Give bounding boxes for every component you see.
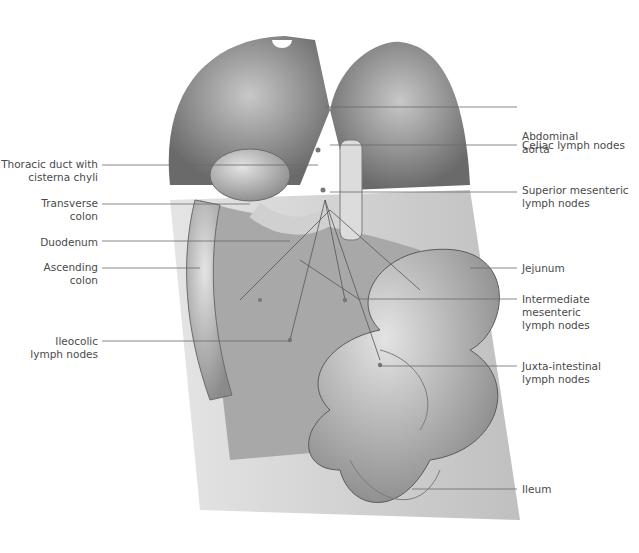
- label-transverse: Transverse colon: [41, 197, 98, 223]
- label-ileocolic: Ileocolic lymph nodes: [30, 335, 98, 361]
- label-ileum: Ileum: [522, 483, 551, 496]
- label-juxta-intestinal: Juxta-intestinal lymph nodes: [522, 360, 601, 386]
- label-celiac-lymph-nodes: Celiac lymph nodes: [522, 139, 625, 152]
- label-superior-mesenteric: Superior mesenteric lymph nodes: [522, 184, 629, 210]
- label-intermediate: Intermediate mesenteric lymph nodes: [522, 293, 590, 332]
- label-jejunum: Jejunum: [522, 262, 565, 275]
- label-ascending: Ascending colon: [44, 261, 98, 287]
- label-thoracic-duct-with: Thoracic duct with cisterna chyli: [1, 158, 98, 184]
- label-duodenum: Duodenum: [40, 236, 98, 249]
